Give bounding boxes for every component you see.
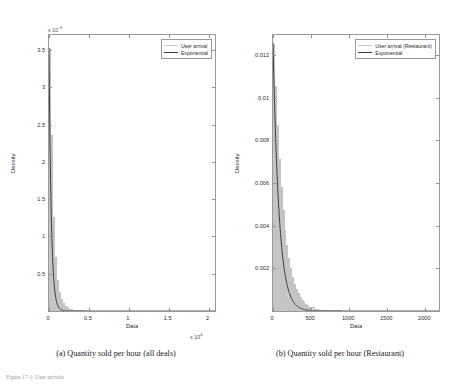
panel-b: Density 0.0020.0040.0060.0080.010.012 Us… — [228, 12, 452, 357]
y-tick-mark-a — [49, 125, 52, 126]
figure-caption: Figure 17-1: User arrivals — [6, 374, 64, 380]
y-tick-mark-a — [212, 199, 215, 200]
y-tick-mark-b — [273, 268, 276, 269]
y-tick-label-b: 0.01 — [258, 95, 269, 101]
x-tick-mark-b — [273, 35, 274, 38]
y-tick-mark-a — [49, 274, 52, 275]
x-tick-mark-a — [49, 308, 50, 311]
y-tick-mark-a — [49, 87, 52, 88]
y-tick-mark-b — [436, 55, 439, 56]
exponential-fit-curve-a — [49, 35, 215, 311]
x-tick-label-b: 0 — [270, 315, 273, 321]
legend-label-fit-a: Exponential — [181, 50, 208, 56]
y-tick-mark-a — [212, 274, 215, 275]
y-tick-label-b: 0.004 — [255, 223, 269, 229]
legend-entry-histogram-a: User arrival — [164, 42, 208, 49]
plot-area-a: User arrival Exponential — [48, 34, 216, 312]
legend-entry-histogram-b: User arrival (Restaurant) — [358, 42, 432, 49]
x-axis-label-b: Data — [272, 323, 440, 329]
x-tick-mark-b — [387, 308, 388, 311]
x-tick-mark-b — [387, 35, 388, 38]
y-tick-label-a: 1 — [42, 233, 45, 239]
y-tick-mark-b — [436, 268, 439, 269]
y-tick-label-b: 0.006 — [255, 180, 269, 186]
x-tick-mark-b — [349, 35, 350, 38]
y-tick-mark-a — [49, 50, 52, 51]
x-tick-mark-a — [129, 35, 130, 38]
y-tick-mark-b — [273, 226, 276, 227]
y-axis-multiplier-base-a: x 10 — [48, 27, 58, 33]
y-tick-mark-b — [273, 55, 276, 56]
x-tick-label-a: 0.5 — [84, 315, 92, 321]
x-tick-mark-b — [273, 308, 274, 311]
x-tick-mark-b — [311, 35, 312, 38]
y-axis-multiplier-a: x 10-3 — [48, 25, 62, 33]
plot-area-b: User arrival (Restaurant) Exponential — [272, 34, 440, 312]
x-axis-multiplier-base-a: x 10 — [190, 334, 200, 340]
y-tick-mark-a — [212, 125, 215, 126]
x-tick-mark-a — [209, 308, 210, 311]
y-axis-ticks-b: 0.0020.0040.0060.0080.010.012 — [228, 34, 269, 312]
y-tick-label-a: 3 — [42, 84, 45, 90]
x-tick-label-a: 1 — [126, 315, 129, 321]
subcaption-a: (a) Quantity sold per hour (all deals) — [4, 349, 228, 358]
y-tick-mark-a — [212, 236, 215, 237]
exponential-fit-curve-b — [273, 35, 439, 311]
legend-swatch-fit-icon-b — [358, 52, 372, 53]
y-tick-mark-a — [49, 199, 52, 200]
x-tick-label-b: 1500 — [380, 315, 392, 321]
y-tick-mark-b — [273, 183, 276, 184]
figure-container: x 10-3 Density 0.511.522.533.5 User arri… — [0, 0, 453, 387]
y-tick-label-b: 0.012 — [255, 52, 269, 58]
legend-swatch-histogram-icon-a — [164, 45, 178, 46]
y-axis-ticks-a: 0.511.522.533.5 — [4, 34, 45, 312]
x-tick-mark-a — [169, 35, 170, 38]
x-tick-mark-a — [49, 35, 50, 38]
y-tick-label-a: 2 — [42, 159, 45, 165]
legend-entry-fit-b: Exponential — [358, 49, 432, 56]
fit-curve-path — [49, 48, 215, 311]
legend-a: User arrival Exponential — [161, 39, 212, 59]
y-tick-mark-b — [273, 98, 276, 99]
x-tick-mark-a — [89, 35, 90, 38]
y-tick-mark-a — [49, 236, 52, 237]
x-tick-mark-a — [209, 35, 210, 38]
y-tick-mark-b — [436, 98, 439, 99]
y-tick-label-b: 0.002 — [255, 265, 269, 271]
y-tick-mark-a — [212, 50, 215, 51]
legend-entry-fit-a: Exponential — [164, 49, 208, 56]
x-tick-label-a: 2 — [206, 315, 209, 321]
x-tick-label-b: 500 — [305, 315, 314, 321]
y-tick-mark-a — [49, 162, 52, 163]
x-tick-mark-a — [129, 308, 130, 311]
x-tick-mark-a — [169, 308, 170, 311]
x-axis-multiplier-exponent-a: 4 — [200, 332, 202, 337]
fit-curve-path — [273, 42, 439, 311]
y-tick-label-a: 1.5 — [37, 196, 45, 202]
y-tick-mark-b — [436, 140, 439, 141]
y-tick-mark-a — [212, 162, 215, 163]
y-tick-mark-a — [212, 87, 215, 88]
y-tick-label-a: 0.5 — [37, 271, 45, 277]
y-axis-multiplier-exponent-a: -3 — [58, 25, 62, 30]
legend-label-histogram-a: User arrival — [181, 43, 208, 49]
y-tick-label-b: 0.008 — [255, 137, 269, 143]
y-tick-mark-b — [273, 140, 276, 141]
legend-swatch-histogram-icon-b — [358, 45, 372, 46]
x-tick-label-a: 1.5 — [164, 315, 172, 321]
x-tick-mark-a — [89, 308, 90, 311]
y-tick-mark-b — [436, 226, 439, 227]
subcaption-b: (b) Quantity sold per hour (Restaurant) — [228, 349, 452, 358]
y-tick-label-a: 3.5 — [37, 47, 45, 53]
legend-swatch-fit-icon-a — [164, 52, 178, 53]
x-tick-label-a: 0 — [46, 315, 49, 321]
panel-a: x 10-3 Density 0.511.522.533.5 User arri… — [4, 12, 228, 357]
legend-label-fit-b: Exponential — [375, 50, 402, 56]
x-axis-label-a: Data — [48, 323, 216, 329]
legend-b: User arrival (Restaurant) Exponential — [355, 39, 436, 59]
y-tick-mark-b — [436, 183, 439, 184]
x-tick-label-b: 2000 — [418, 315, 430, 321]
x-tick-mark-b — [311, 308, 312, 311]
x-axis-multiplier-a: x 104 — [190, 332, 203, 340]
x-tick-label-b: 1000 — [342, 315, 354, 321]
